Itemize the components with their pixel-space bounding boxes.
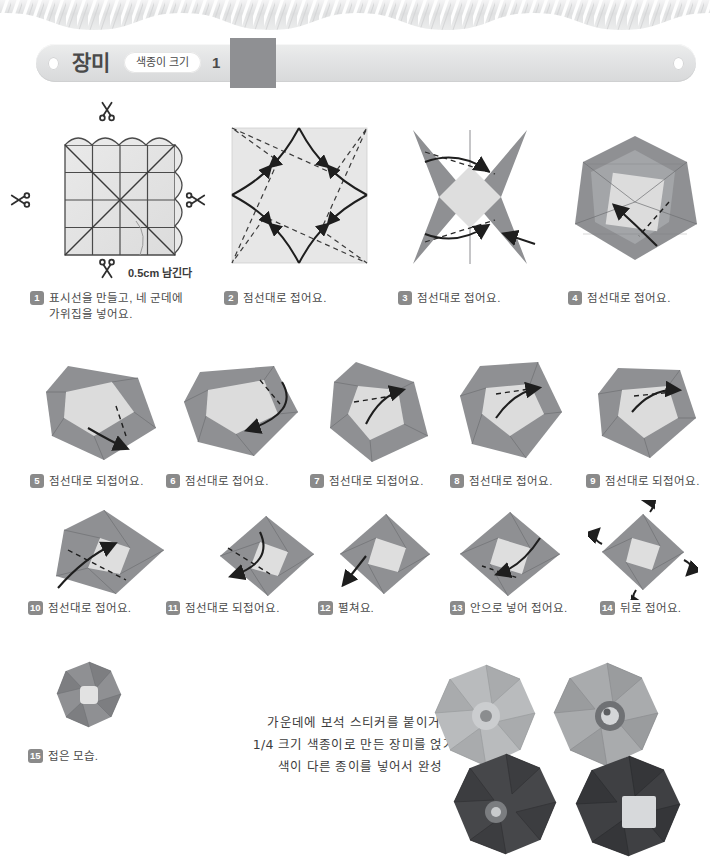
title-banner: 장미 색종이 크기 1	[36, 44, 696, 82]
step-instruction-text: 점선대로 접어요.	[48, 600, 168, 616]
step-number-badge: 3	[398, 291, 412, 305]
step-7-diagram	[320, 356, 440, 468]
scissors-icon-left	[9, 189, 31, 211]
step-caption-14: 14 뒤로 접어요.	[600, 600, 710, 616]
step-11-diagram	[212, 512, 322, 600]
step-number-badge: 4	[568, 291, 582, 305]
step-number-badge: 1	[30, 291, 44, 305]
step-instruction-text: 점선대로 되접어요.	[185, 600, 311, 616]
step-instruction-text: 점선대로 접어요.	[185, 473, 301, 489]
step-caption-2: 2 점선대로 접어요.	[224, 290, 384, 306]
step-6-diagram	[178, 358, 308, 468]
step-13-diagram	[452, 508, 568, 600]
paper-color-swatch	[230, 38, 276, 88]
step-number-badge: 11	[166, 601, 180, 615]
step-caption-8: 8 점선대로 접어요.	[450, 473, 585, 489]
scissors-icon-bottom	[96, 258, 118, 280]
step-1-figure-group	[22, 105, 222, 285]
step-12-diagram	[330, 510, 436, 598]
step-caption-11: 11 점선대로 되접어요.	[166, 600, 311, 616]
step-caption-1: 1 표시선을 만들고, 네 군데에 가위집을 넣어요.	[30, 290, 215, 322]
step-caption-12: 12 펼쳐요.	[318, 600, 408, 616]
step-caption-4: 4 점선대로 접어요.	[568, 290, 708, 306]
result-photo-dark-rose-inset	[570, 752, 688, 861]
step-caption-3: 3 점선대로 접어요.	[398, 290, 558, 306]
step-caption-13: 13 안으로 넣어 접어요.	[450, 600, 595, 616]
step-number-badge: 15	[28, 749, 43, 763]
step-instruction-text: 뒤로 접어요.	[620, 600, 710, 616]
scissors-icon-right	[185, 189, 207, 211]
step-instruction-text: 점선대로 되접어요.	[329, 473, 450, 489]
step-instruction-text: 점선대로 되접어요.	[605, 473, 710, 489]
step-instruction-text: 접은 모습.	[48, 748, 148, 764]
step-caption-15: 15 접은 모습.	[28, 748, 148, 764]
step-10-diagram	[42, 506, 172, 598]
step-number-badge: 6	[166, 474, 180, 488]
banner-hole-left	[48, 57, 59, 70]
paper-size-value: 1	[212, 53, 220, 73]
model-title: 장미	[72, 49, 109, 77]
rope-border-decoration	[0, 0, 710, 30]
banner-hole-right	[673, 57, 684, 70]
step-14-diagram	[588, 500, 698, 600]
step-number-badge: 10	[28, 601, 43, 615]
step-3-diagram	[395, 122, 545, 272]
step-instruction-text: 점선대로 접어요.	[417, 290, 558, 306]
step-instruction-text: 표시선을 만들고, 네 군데에 가위집을 넣어요.	[49, 290, 215, 322]
step-caption-6: 6 점선대로 접어요.	[166, 473, 301, 489]
step-instruction-text: 점선대로 되접어요.	[49, 473, 165, 489]
result-photo-dark-rose-jewel	[448, 750, 564, 860]
step-number-badge: 14	[600, 601, 615, 615]
step-2-diagram	[222, 118, 377, 273]
step-5-diagram	[38, 358, 168, 468]
step-number-badge: 7	[310, 474, 324, 488]
step-number-badge: 5	[30, 474, 44, 488]
paper-size-label: 색종이 크기	[124, 52, 201, 73]
step-number-badge: 13	[450, 601, 465, 615]
step-caption-5: 5 점선대로 되접어요.	[30, 473, 165, 489]
step-number-badge: 9	[586, 474, 600, 488]
step-number-badge: 12	[318, 601, 333, 615]
step-number-badge: 8	[450, 474, 464, 488]
step-instruction-text: 점선대로 접어요.	[243, 290, 384, 306]
step-instruction-text: 안으로 넣어 접어요.	[470, 600, 595, 616]
step-caption-9: 9 점선대로 되접어요.	[586, 473, 710, 489]
step-number-badge: 2	[224, 291, 238, 305]
step-instruction-text: 점선대로 접어요.	[469, 473, 585, 489]
step-caption-10: 10 점선대로 접어요.	[28, 600, 168, 616]
step-9-diagram	[588, 356, 706, 468]
step-caption-7: 7 점선대로 되접어요.	[310, 473, 450, 489]
step-15-diagram	[52, 658, 126, 732]
trim-annotation: 0.5cm 남긴다	[128, 264, 192, 280]
step-4-diagram	[565, 128, 705, 268]
step-instruction-text: 점선대로 접어요.	[587, 290, 708, 306]
step-instruction-text: 펼쳐요.	[338, 600, 408, 616]
scissors-icon-top	[96, 100, 118, 122]
step-8-diagram	[452, 356, 572, 468]
